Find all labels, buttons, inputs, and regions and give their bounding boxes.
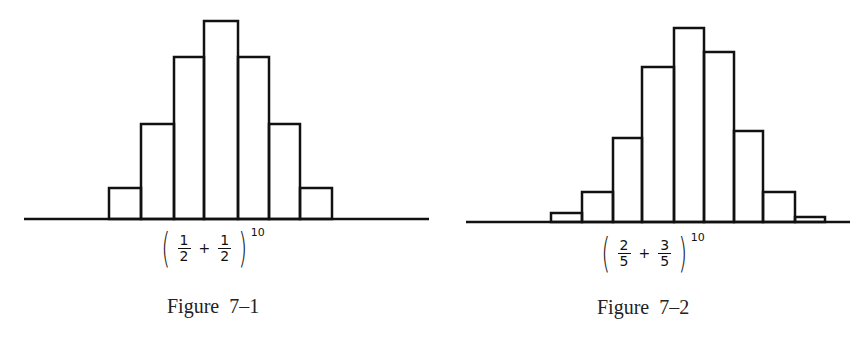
histogram-bar	[704, 52, 734, 222]
plus-sign: +	[639, 245, 651, 261]
figure-7-1: ( 1 2 + 1 2 ) 10 Figure 7–1	[0, 0, 432, 341]
denominator: 5	[660, 254, 669, 269]
histogram-7-2	[432, 0, 864, 341]
fraction-b: 3 5	[658, 238, 671, 269]
left-paren: (	[162, 228, 171, 268]
left-paren: (	[602, 233, 611, 273]
histogram-bar	[763, 192, 795, 222]
histogram-bar	[613, 138, 642, 222]
histogram-bar	[204, 21, 238, 219]
denominator: 2	[180, 249, 189, 264]
numerator: 3	[658, 238, 671, 254]
numerator: 2	[618, 238, 631, 254]
figure-caption: Figure 7–1	[167, 295, 259, 318]
exponent: 10	[691, 231, 705, 244]
figure-caption: Figure 7–2	[597, 296, 689, 319]
plus-sign: +	[199, 240, 211, 256]
exponent: 10	[251, 226, 265, 239]
right-paren: )	[239, 228, 248, 268]
denominator: 2	[220, 249, 229, 264]
numerator: 1	[178, 233, 191, 249]
right-paren: )	[679, 233, 688, 273]
histogram-bar	[141, 124, 174, 219]
histogram-bar	[269, 124, 300, 219]
histogram-bar	[551, 213, 582, 222]
histogram-bar	[174, 57, 204, 219]
formula-7-1: ( 1 2 + 1 2 ) 10	[158, 228, 265, 268]
fraction-a: 2 5	[618, 238, 631, 269]
histogram-7-1	[0, 0, 432, 341]
formula-7-2: ( 2 5 + 3 5 ) 10	[598, 233, 705, 273]
histogram-bar	[795, 217, 825, 222]
figure-7-2: ( 2 5 + 3 5 ) 10 Figure 7–2	[432, 0, 864, 341]
histogram-bar	[109, 188, 141, 219]
fraction-a: 1 2	[178, 233, 191, 264]
fraction-b: 1 2	[218, 233, 231, 264]
numerator: 1	[218, 233, 231, 249]
histogram-bar	[674, 28, 704, 222]
histogram-bar	[734, 131, 763, 222]
histogram-bar	[300, 188, 332, 219]
histogram-bar	[582, 192, 613, 222]
denominator: 5	[620, 254, 629, 269]
histogram-bar	[238, 57, 269, 219]
histogram-bar	[642, 67, 674, 222]
